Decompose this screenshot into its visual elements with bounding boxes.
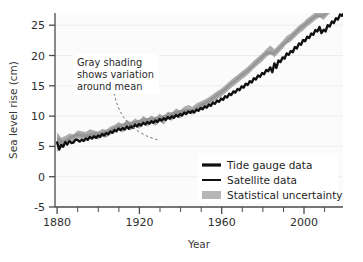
- x-axis-title: Year: [187, 238, 211, 250]
- x-tick-1920: 1920: [125, 216, 153, 229]
- sea-level-rise-chart: 25 20 15 10 5 0 -5: [0, 0, 363, 262]
- y-axis-tick-labels: 25 20 15 10 5 0 -5: [31, 19, 45, 214]
- chart-legend: Tide gauge data Satellite data Statistic…: [198, 155, 343, 203]
- legend-label-satellite: Satellite data: [227, 174, 297, 186]
- x-tick-2000: 2000: [290, 216, 318, 229]
- x-tick-1960: 1960: [208, 216, 236, 229]
- annotation-line-3: around mean: [77, 81, 142, 92]
- chart-canvas: 25 20 15 10 5 0 -5: [0, 0, 363, 262]
- y-axis-ticks: [49, 25, 55, 207]
- y-tick-10: 10: [31, 110, 45, 123]
- legend-swatch-gray-box: [202, 191, 221, 199]
- y-tick-5: 5: [38, 140, 45, 153]
- y-tick-20: 20: [31, 50, 45, 63]
- y-tick-15: 15: [31, 80, 45, 93]
- legend-label-tide-gauge: Tide gauge data: [226, 159, 312, 171]
- y-axis-title: Sea level rise (cm): [7, 61, 19, 159]
- y-tick-0: 0: [38, 171, 45, 184]
- y-tick-25: 25: [31, 19, 45, 32]
- annotation-line-1: Gray shading: [77, 57, 142, 68]
- x-tick-1880: 1880: [43, 216, 71, 229]
- annotation-line-2: shows variation: [77, 69, 154, 80]
- y-tick-neg5: -5: [34, 201, 45, 214]
- x-axis-tick-labels: 1880 1920 1960 2000: [43, 216, 318, 229]
- legend-label-uncertainty: Statistical uncertainty: [227, 189, 343, 201]
- x-axis-ticks-minor: [78, 207, 325, 212]
